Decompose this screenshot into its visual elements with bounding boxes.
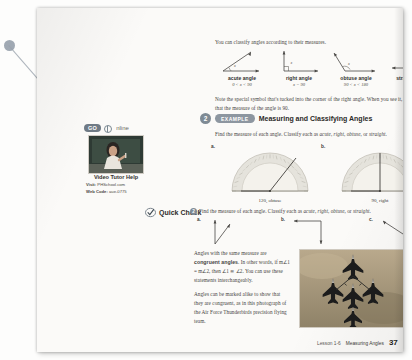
figure-label: acute angle bbox=[215, 75, 269, 81]
example-part-a: a. bbox=[227, 144, 313, 203]
go-badge: GO bbox=[84, 124, 101, 132]
quick-check-prompt: Find the measure of each angle. Classify… bbox=[199, 207, 403, 216]
angle-classification-gallery: x acute angle 0 < x < 90 x bbox=[215, 48, 403, 94]
figure-label: right angle bbox=[272, 75, 326, 81]
qc-prompt-or: or bbox=[346, 208, 353, 214]
online-label: nline bbox=[116, 125, 129, 131]
figure-right-angle: x right angle x = 90 bbox=[272, 48, 326, 87]
qc-prompt-end: . bbox=[370, 208, 371, 214]
video-tutor-meta: Visit: PHSchool.com Web Code: aue-0775 bbox=[86, 182, 148, 196]
qc-angle-b-diagram bbox=[289, 217, 349, 247]
video-tutor-caption: Video Tutor Help bbox=[88, 174, 144, 180]
congruent-angles-text: Angles with the same measure are congrue… bbox=[194, 249, 290, 331]
qc-label-c: c. bbox=[369, 217, 373, 222]
example-prompt-italic2: straight bbox=[369, 131, 386, 137]
right-angle-note: Note the special symbol that's tucked in… bbox=[215, 95, 403, 113]
cg-p1-bold: congruent angles bbox=[194, 259, 238, 265]
obtuse-angle-diagram: x bbox=[329, 48, 383, 75]
textbook-page-sheet: You can classify angles according to the… bbox=[37, 8, 403, 352]
visit-value[interactable]: PHSchool.com bbox=[97, 182, 125, 187]
webcode-label: Web Code: bbox=[86, 189, 108, 194]
figure-measure: x = 90 bbox=[272, 82, 326, 87]
visit-row: Visit: PHSchool.com bbox=[86, 182, 148, 189]
congruent-paragraph-1: Angles with the same measure are congrue… bbox=[194, 249, 290, 285]
congruent-paragraph-2: Angles can be marked alike to show that … bbox=[194, 290, 290, 326]
check-mark-icon bbox=[145, 207, 156, 218]
qc-label-a: a. bbox=[197, 217, 201, 222]
video-tutor-thumbnail[interactable] bbox=[88, 135, 144, 174]
svg-text:x: x bbox=[290, 60, 293, 65]
lead-paragraph: You can classify angles according to the… bbox=[215, 38, 403, 47]
visit-label: Visit: bbox=[86, 182, 96, 187]
qc-label-b: b. bbox=[281, 217, 285, 222]
right-angle-diagram: x bbox=[272, 48, 326, 75]
webcode-value: aue-0775 bbox=[109, 189, 127, 194]
quick-check-number: 2 bbox=[190, 208, 197, 215]
example-prompt-or: or bbox=[362, 131, 369, 137]
page-footer: Lesson 1-6 Measuring Angles 37 bbox=[317, 338, 398, 347]
figure-measure: 0 < x < 90 bbox=[215, 82, 269, 87]
example-header: 2 EXAMPLE Measuring and Classifying Angl… bbox=[200, 113, 372, 124]
footer-title: Measuring Angles bbox=[346, 341, 384, 346]
figure-acute-angle: x acute angle 0 < x < 90 bbox=[215, 48, 269, 87]
acute-angle-diagram: x bbox=[215, 48, 269, 75]
screenshot-root: You can classify angles according to the… bbox=[0, 0, 412, 360]
globe-icon bbox=[104, 125, 112, 133]
qc-prompt-start: Find the measure of each angle. Classify… bbox=[199, 208, 303, 214]
page-edge-shadow bbox=[394, 8, 403, 352]
cg-p1-a: Angles with the same measure are bbox=[194, 250, 267, 256]
example-title: Measuring and Classifying Angles bbox=[259, 115, 373, 122]
example-pill-label: EXAMPLE bbox=[215, 114, 255, 123]
qc-prompt-italic2: straight bbox=[353, 208, 370, 214]
figure-label: obtuse angle bbox=[329, 75, 383, 81]
webcode-row: Web Code: aue-0775 bbox=[86, 189, 148, 196]
figure-measure: 90 < x < 180 bbox=[329, 82, 383, 87]
example-prompt-start: Find the measure of each angle. Classify… bbox=[215, 131, 319, 137]
figure-obtuse-angle: x obtuse angle 90 < x < 180 bbox=[329, 48, 383, 87]
example-prompt-italic: acute, right, obtuse, bbox=[319, 131, 361, 137]
go-online-link[interactable]: GO nline bbox=[84, 124, 129, 132]
protractor-a-diagram bbox=[227, 149, 313, 197]
footer-lesson: Lesson 1-6 bbox=[317, 341, 341, 346]
qc-angle-a-diagram bbox=[203, 217, 263, 247]
example-prompt: Find the measure of each angle. Classify… bbox=[215, 130, 403, 139]
thunderbirds-photograph bbox=[299, 249, 403, 328]
example-prompt-end: . bbox=[386, 131, 387, 137]
qc-prompt-italic: acute, right, obtuse, bbox=[303, 208, 345, 214]
quick-check-figures: a. b. c. bbox=[197, 217, 403, 247]
svg-text:x: x bbox=[347, 61, 350, 66]
example-number-badge: 2 bbox=[200, 113, 211, 124]
svg-text:x: x bbox=[233, 63, 236, 68]
part-a-answer: 120, obtuse bbox=[227, 198, 313, 203]
